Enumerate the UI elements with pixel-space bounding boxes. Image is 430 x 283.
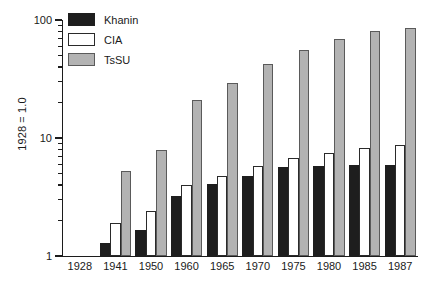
x-tick-label: 1970 [246, 260, 270, 272]
bar-tssu [334, 39, 344, 256]
bar-cia [395, 145, 405, 256]
y-tick-label: 100 [34, 14, 52, 26]
bar-group [385, 20, 416, 256]
x-tick-label: 1980 [317, 260, 341, 272]
x-tick-label: 1987 [388, 260, 412, 272]
bar-tssu [156, 150, 166, 256]
x-tick-label: 1960 [174, 260, 198, 272]
y-axis-ticks: 100101 [0, 0, 62, 283]
bar-cia [324, 153, 334, 256]
legend-label-khanin: Khanin [104, 14, 138, 26]
legend-swatch-khanin [68, 13, 95, 26]
y-tick-label: 10 [40, 132, 52, 144]
x-tick-label: 1928 [68, 260, 92, 272]
legend-swatch-cia [68, 33, 95, 46]
bar-khanin [349, 165, 359, 256]
legend-label-tssu: TsSU [104, 54, 130, 66]
bar-tssu [263, 64, 273, 256]
legend-item-khanin: Khanin [68, 11, 138, 28]
bar-khanin [385, 165, 395, 256]
bar-cia [217, 176, 227, 256]
bar-khanin [100, 243, 110, 256]
x-axis-line [62, 256, 418, 257]
bar-cia [359, 148, 369, 256]
x-axis-labels: 1928194119501960196519701975198019851987 [62, 260, 418, 280]
bar-khanin [278, 167, 288, 256]
x-tick-label: 1965 [210, 260, 234, 272]
bar-cia [146, 211, 156, 256]
y-tick-major [55, 19, 62, 20]
x-tick-label: 1941 [103, 260, 127, 272]
x-tick-label: 1985 [352, 260, 376, 272]
bar-cia [253, 166, 263, 256]
bar-khanin [313, 166, 323, 256]
bar-group [313, 20, 344, 256]
bar-cia [181, 185, 191, 256]
legend-item-tssu: TsSU [68, 51, 138, 68]
bar-cia [288, 158, 298, 256]
bar-khanin [242, 176, 252, 256]
bar-group [242, 20, 273, 256]
chart-legend: KhaninCIATsSU [68, 11, 138, 71]
bar-group [278, 20, 309, 256]
legend-swatch-tssu [68, 53, 95, 66]
x-tick-label: 1950 [139, 260, 163, 272]
bar-group [207, 20, 238, 256]
bar-tssu [370, 31, 380, 256]
bar-tssu [227, 83, 237, 256]
bar-group [171, 20, 202, 256]
chart-container: 1928 = 1.0 100101 1928194119501960196519… [0, 0, 430, 283]
bar-cia [110, 223, 120, 256]
bar-tssu [405, 28, 415, 256]
x-tick-label: 1975 [281, 260, 305, 272]
y-tick-major [55, 137, 62, 138]
y-tick-major [55, 255, 62, 256]
bar-tssu [192, 100, 202, 256]
bar-khanin [207, 184, 217, 256]
bar-tssu [121, 171, 131, 256]
bar-group [135, 20, 166, 256]
bar-khanin [135, 230, 145, 256]
bar-group [349, 20, 380, 256]
bar-khanin [171, 196, 181, 256]
y-tick-label: 1 [46, 250, 52, 262]
legend-item-cia: CIA [68, 31, 138, 48]
bar-tssu [299, 50, 309, 256]
legend-label-cia: CIA [104, 34, 122, 46]
